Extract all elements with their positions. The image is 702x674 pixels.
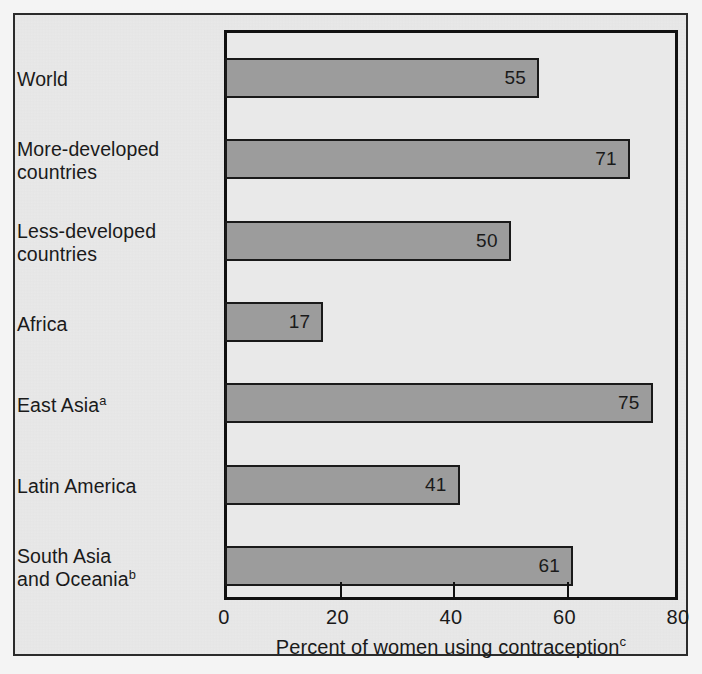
bar: 75 [225, 383, 653, 423]
footnote-marker: b [129, 567, 136, 582]
bar: 17 [225, 302, 323, 342]
x-axis-tick-mark [567, 582, 569, 597]
bar-value-label: 71 [595, 148, 628, 170]
bar-value-label: 50 [476, 230, 509, 252]
bar: 41 [225, 465, 460, 505]
category-label: Less-developedcountries [17, 220, 217, 266]
x-axis-tick-label: 60 [553, 606, 576, 629]
bar-value-label: 55 [504, 67, 537, 89]
footnote-marker: c [620, 634, 627, 649]
category-label: More-developedcountries [17, 138, 217, 184]
footnote-marker: a [99, 392, 106, 407]
bar-value-label: 41 [425, 474, 458, 496]
bar: 50 [225, 221, 511, 261]
x-axis-tick-mark [453, 582, 455, 597]
bar-value-label: 17 [289, 311, 322, 333]
bars-container: 55715017754161 [227, 33, 675, 597]
category-label-column: WorldMore-developedcountriesLess-develop… [17, 17, 224, 587]
bar: 55 [225, 58, 539, 98]
x-axis-tick-label: 20 [326, 606, 349, 629]
category-label: East Asiaa [17, 394, 217, 417]
x-axis-tick-label: 40 [440, 606, 463, 629]
figure-canvas: WorldMore-developedcountriesLess-develop… [0, 0, 702, 674]
bar-value-label: 75 [618, 392, 651, 414]
bar: 61 [225, 546, 573, 586]
x-axis-title: Percent of women using contraceptionc [224, 636, 678, 659]
category-label: South Asiaand Oceaniab [17, 545, 217, 591]
category-label: Latin America [17, 475, 217, 498]
x-axis-tick-mark [340, 582, 342, 597]
plot-area: 55715017754161 [224, 30, 678, 600]
bar-value-label: 61 [538, 555, 571, 577]
category-label: Africa [17, 313, 217, 336]
x-axis-tick-label: 0 [218, 606, 229, 629]
x-axis-tick-label: 80 [667, 606, 690, 629]
category-label: World [17, 68, 217, 91]
bar: 71 [225, 139, 630, 179]
